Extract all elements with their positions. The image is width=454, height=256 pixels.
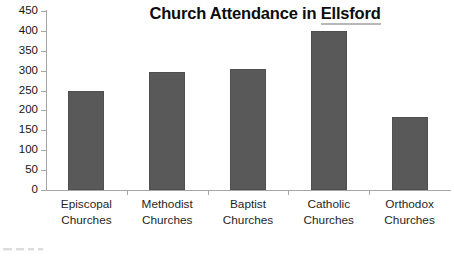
y-axis-tick-label: 450 xyxy=(4,5,38,17)
y-axis-tick-label: 200 xyxy=(4,104,38,116)
bar-catholic-churches xyxy=(311,31,347,190)
x-axis-tick xyxy=(208,190,209,195)
x-axis-label-line: Churches xyxy=(46,213,127,229)
x-axis-tick xyxy=(127,190,128,195)
bar-baptist-churches xyxy=(230,69,266,190)
scan-artifact xyxy=(3,243,43,251)
bar-orthodox-churches xyxy=(392,117,428,190)
y-axis-tick-label: 50 xyxy=(4,164,38,176)
y-axis-tick-label: 150 xyxy=(4,124,38,136)
x-axis-label: CatholicChurches xyxy=(288,197,369,228)
x-axis-label-line: Churches xyxy=(127,213,208,229)
x-axis-tick xyxy=(288,190,289,195)
x-axis-label-line: Baptist xyxy=(208,197,289,213)
y-axis-tick-label: 0 xyxy=(4,184,38,196)
x-axis-label: MethodistChurches xyxy=(127,197,208,228)
x-axis-label-line: Churches xyxy=(369,213,450,229)
x-axis-label: BaptistChurches xyxy=(208,197,289,228)
x-axis-label-line: Churches xyxy=(288,213,369,229)
x-axis-label-line: Churches xyxy=(208,213,289,229)
x-axis-label-line: Catholic xyxy=(288,197,369,213)
y-axis-tick-label: 300 xyxy=(4,65,38,77)
x-axis-label-line: Methodist xyxy=(127,197,208,213)
bar-episcopal-churches xyxy=(68,91,104,190)
x-axis-tick xyxy=(369,190,370,195)
y-axis-tick-label: 100 xyxy=(4,144,38,156)
x-axis-label: EpiscopalChurches xyxy=(46,197,127,228)
plot-area xyxy=(46,11,450,190)
y-axis-tick-label: 250 xyxy=(4,85,38,97)
x-axis-label: OrthodoxChurches xyxy=(369,197,450,228)
y-axis-tick-label: 350 xyxy=(4,45,38,57)
x-axis-label-line: Orthodox xyxy=(369,197,450,213)
x-axis-labels: EpiscopalChurchesMethodistChurchesBaptis… xyxy=(46,197,451,241)
bar-methodist-churches xyxy=(149,72,185,190)
bar-chart: Church Attendance in Ellsford 0501001502… xyxy=(0,0,454,256)
y-axis-tick-label: 400 xyxy=(4,25,38,37)
x-axis-label-line: Episcopal xyxy=(46,197,127,213)
x-axis-line xyxy=(46,190,451,191)
y-axis-tick xyxy=(41,190,46,191)
